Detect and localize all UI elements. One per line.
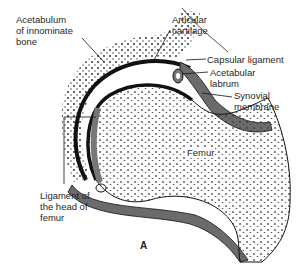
label-ligament-head-femur: Ligament of the head of femur [40, 190, 90, 223]
label-femur: Femur [186, 147, 215, 158]
label-synovial-membrane: Synovial membrane [234, 90, 279, 112]
label-capsular-ligament: Capsular ligament [207, 54, 284, 65]
label-articular-cartilage: Articular cartilage [172, 14, 208, 36]
label-acetabulum: Acetabulum of innominate bone [16, 14, 73, 47]
figure-letter: A [140, 240, 147, 251]
label-acetabular-labrum: Acetabular labrum [210, 67, 255, 89]
